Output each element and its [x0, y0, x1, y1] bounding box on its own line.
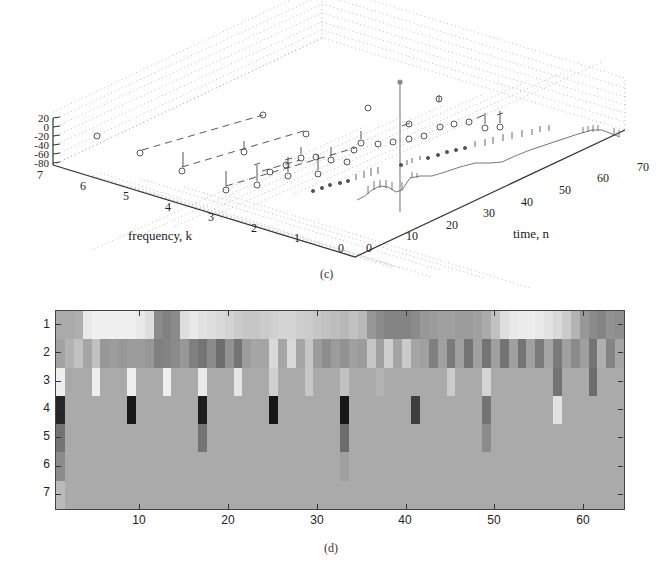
heatmap-cell — [562, 452, 571, 480]
heatmap-cell — [376, 424, 385, 452]
heatmap-cell — [163, 311, 172, 339]
heatmap-cell — [509, 452, 518, 480]
heatmap-cell — [455, 452, 464, 480]
heatmap-cell — [260, 452, 269, 480]
heatmap-cell — [491, 424, 500, 452]
heatmap-cell — [171, 424, 180, 452]
heatmap-cell — [429, 424, 438, 452]
heatmap-cell — [313, 424, 322, 452]
heatmap-cell — [367, 424, 376, 452]
heatmap-cell — [251, 481, 260, 509]
heatmap-cell — [118, 339, 127, 367]
heatmap-cell — [589, 424, 598, 452]
heatmap-cell — [269, 481, 278, 509]
heatmap-cell — [535, 368, 544, 396]
heatmap-cell — [562, 311, 571, 339]
y-tick-mark — [618, 352, 623, 353]
heatmap-cell — [171, 311, 180, 339]
y-tick-label: 1 — [36, 317, 50, 331]
svg-text:0: 0 — [366, 241, 372, 255]
heatmap-cell — [526, 481, 535, 509]
y-tick-mark — [56, 352, 61, 353]
heatmap-cell — [411, 311, 420, 339]
heatmap-cell — [65, 396, 74, 424]
heatmap-cell — [260, 424, 269, 452]
x-tick-mark — [228, 504, 229, 509]
svg-text:70: 70 — [637, 160, 649, 174]
heatmap-cell — [269, 368, 278, 396]
heatmap-cell — [420, 481, 429, 509]
heatmap-cell — [65, 368, 74, 396]
heatmap-cell — [367, 481, 376, 509]
heatmap-cell — [56, 424, 65, 452]
heatmap-cell — [411, 424, 420, 452]
svg-text:60: 60 — [597, 171, 609, 185]
heatmap-cell — [305, 311, 314, 339]
heatmap-cell — [455, 396, 464, 424]
heatmap-cell — [278, 424, 287, 452]
heatmap-cell — [393, 481, 402, 509]
heatmap-cell — [553, 424, 562, 452]
heatmap-cell — [198, 424, 207, 452]
heatmap-cell — [544, 311, 553, 339]
heatmap-cell — [234, 424, 243, 452]
heatmap-cell — [65, 481, 74, 509]
heatmap-cell — [163, 368, 172, 396]
heatmap-cell — [154, 339, 163, 367]
svg-text:2: 2 — [251, 221, 257, 235]
heatmap-cell — [198, 339, 207, 367]
heatmap-cell — [518, 424, 527, 452]
heatmap-cell — [171, 339, 180, 367]
heatmap-cell — [464, 396, 473, 424]
heatmap-cell — [500, 452, 509, 480]
heatmap-cell — [100, 396, 109, 424]
heatmap-cell — [145, 339, 154, 367]
panel-c-3d-stem-plot: 20 0 -20 -40 -60 -80 7 6 5 4 3 2 1 0 fre… — [0, 0, 665, 300]
heatmap-cell — [92, 368, 101, 396]
x-tick-label: 40 — [398, 513, 411, 527]
time-axis-tick-labels: 0 10 20 30 40 50 60 70 — [366, 160, 649, 255]
heatmap-cell — [180, 339, 189, 367]
heatmap-cell — [260, 311, 269, 339]
heatmap-cell — [482, 424, 491, 452]
heatmap-cell — [464, 452, 473, 480]
heatmap-cell — [597, 396, 606, 424]
heatmap-cell — [615, 368, 624, 396]
x-tick-mark — [406, 311, 407, 316]
heatmap-cell — [571, 368, 580, 396]
heatmap-cell — [447, 311, 456, 339]
heatmap-cell — [544, 481, 553, 509]
heatmap-cell — [411, 339, 420, 367]
svg-text:40: 40 — [521, 195, 533, 209]
heatmap-cell — [597, 424, 606, 452]
y-tick-label: 4 — [36, 401, 50, 415]
heatmap-cell — [331, 339, 340, 367]
heatmap-cell — [100, 452, 109, 480]
heatmap-cell — [464, 481, 473, 509]
heatmap-cell — [180, 424, 189, 452]
heatmap-cell — [358, 452, 367, 480]
heatmap-cell — [411, 452, 420, 480]
heatmap-cell — [615, 396, 624, 424]
heatmap-cell — [393, 452, 402, 480]
heatmap-cell — [589, 452, 598, 480]
heatmap-cell — [473, 481, 482, 509]
heatmap-cell — [447, 481, 456, 509]
heatmap-cell — [580, 368, 589, 396]
heatmap-cell — [100, 481, 109, 509]
heatmap-cell — [225, 368, 234, 396]
panel-d-heatmap: 1 2 3 4 5 6 7 10 20 30 40 50 60 (d) — [0, 300, 665, 574]
heatmap-cell — [367, 396, 376, 424]
heatmap-cell — [180, 452, 189, 480]
heatmap-cell — [500, 311, 509, 339]
heatmap-cell — [420, 311, 429, 339]
x-tick-label: 30 — [310, 513, 323, 527]
heatmap-cell — [242, 481, 251, 509]
heatmap-cell — [358, 481, 367, 509]
y-tick-label: 3 — [36, 373, 50, 387]
heatmap-cell — [429, 481, 438, 509]
heatmap-cell — [526, 311, 535, 339]
heatmap-cell — [384, 368, 393, 396]
y-tick-mark — [618, 381, 623, 382]
heatmap-cell — [464, 368, 473, 396]
